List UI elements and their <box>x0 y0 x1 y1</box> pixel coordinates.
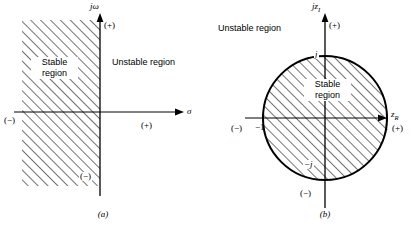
panel-a-graphic <box>0 0 207 235</box>
imaginary-axis-arrowhead-a <box>97 13 104 22</box>
axis-label-zr: zR <box>391 110 399 121</box>
unstable-region-label-b: Unstable region <box>218 23 276 34</box>
unstable-region-label-a-line1: Unstable <box>112 57 148 67</box>
sign-real-positive-b: (+) <box>392 124 403 133</box>
stable-region-label-b-line1: Stable <box>304 79 351 90</box>
unstable-region-label-a-line2: region <box>150 57 175 67</box>
figure-root: jω (+) (−) (+) (−) σ Stable region Unsta… <box>0 0 414 235</box>
sign-imaginary-negative-a: (−) <box>79 172 92 181</box>
imaginary-axis-arrowhead-b <box>322 13 329 22</box>
sign-imaginary-negative-b: (−) <box>300 189 311 198</box>
tick-label-minus-j: −j <box>303 160 314 169</box>
unstable-region-label-a: Unstable region <box>112 57 170 68</box>
tick-label-j: j <box>314 50 319 59</box>
axis-label-jomega: jω <box>90 2 99 11</box>
axis-label-zr-sub: R <box>395 114 399 121</box>
unstable-region-label-b-line2: region <box>256 23 281 33</box>
stable-region-label-a-line2: region <box>31 68 78 79</box>
stable-region-label-b: Stable region <box>304 79 351 101</box>
sign-imaginary-positive-b: (+) <box>329 21 340 30</box>
stable-region-label-a-line1: Stable <box>31 57 78 68</box>
caption-panel-b: (b) <box>305 210 345 219</box>
real-axis-arrowhead-a <box>175 109 184 116</box>
axis-label-sigma: σ <box>187 107 191 116</box>
stable-region-label-a: Stable region <box>31 57 78 79</box>
sign-real-negative-a: (−) <box>3 116 16 125</box>
panel-b-graphic <box>207 0 414 235</box>
tick-label-minus-one: −1 <box>255 123 265 132</box>
stable-region-label-b-line2: region <box>304 90 351 101</box>
tick-label-plus-one: 1 <box>384 123 389 132</box>
axis-label-jzi-sub: I <box>318 6 320 13</box>
sign-real-negative-b: (−) <box>231 124 242 133</box>
axis-label-jzi: jzI <box>312 2 320 13</box>
caption-panel-a: (a) <box>83 210 123 219</box>
stable-region-shading-a <box>22 20 100 186</box>
sign-real-positive-a: (+) <box>141 121 152 130</box>
panel-a-s-plane: jω (+) (−) (+) (−) σ Stable region Unsta… <box>0 0 207 235</box>
sign-imaginary-positive-a: (+) <box>104 21 115 30</box>
unstable-region-label-b-line1: Unstable <box>218 23 254 33</box>
panel-b-z-plane: jzI (+) (−) (−) (+) zR −1 1 j −j Stable … <box>207 0 414 235</box>
